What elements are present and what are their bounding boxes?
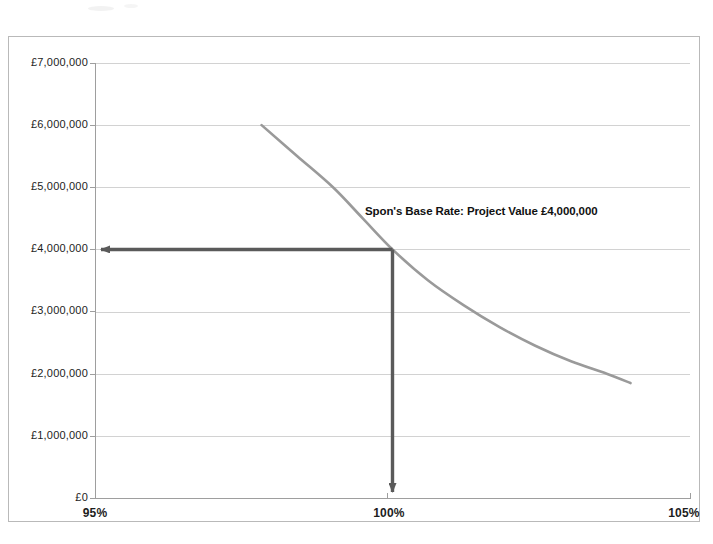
project-value-curve xyxy=(262,125,631,383)
chart-graphics xyxy=(0,0,713,544)
spons-base-rate-callout: Spon's Base Rate: Project Value £4,000,0… xyxy=(365,205,598,217)
